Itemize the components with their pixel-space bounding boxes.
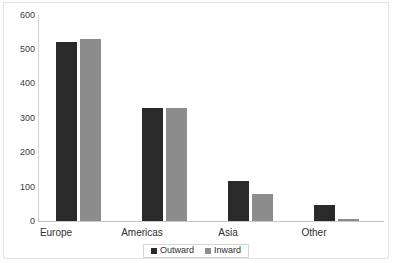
plot-area: [38, 15, 383, 221]
bar-europe-outward: [56, 42, 77, 221]
y-axis-tick-labels: 600 500 400 300 200 100 0: [4, 3, 35, 263]
x-label-other: Other: [254, 227, 374, 239]
bar-other-outward: [314, 205, 335, 221]
y-tick-300: 300: [5, 114, 35, 123]
legend-swatch-outward: [151, 248, 157, 254]
legend-label-inward: Inward: [214, 246, 241, 255]
y-tick-100: 100: [5, 183, 35, 192]
bar-group-europe: [56, 15, 101, 221]
chart-container: 600 500 400 300 200 100 0 Europe America…: [3, 2, 389, 259]
y-tick-500: 500: [5, 45, 35, 54]
bar-americas-inward: [166, 108, 187, 221]
legend-item-inward[interactable]: Inward: [205, 246, 241, 255]
bar-other-inward: [338, 219, 359, 221]
bar-americas-outward: [142, 108, 163, 221]
bar-group-americas: [142, 15, 187, 221]
chart-legend: Outward Inward: [143, 244, 249, 258]
bar-group-asia: [228, 15, 273, 221]
bar-asia-outward: [228, 181, 249, 222]
legend-item-outward[interactable]: Outward: [151, 246, 194, 255]
legend-label-outward: Outward: [160, 246, 194, 255]
bar-europe-inward: [80, 39, 101, 221]
y-tick-400: 400: [5, 79, 35, 88]
bar-group-other: [314, 15, 359, 221]
legend-swatch-inward: [205, 248, 211, 254]
bar-asia-inward: [252, 194, 273, 221]
y-tick-200: 200: [5, 148, 35, 157]
y-tick-0: 0: [5, 217, 35, 226]
x-axis-line: [38, 221, 384, 222]
y-tick-600: 600: [5, 11, 35, 20]
